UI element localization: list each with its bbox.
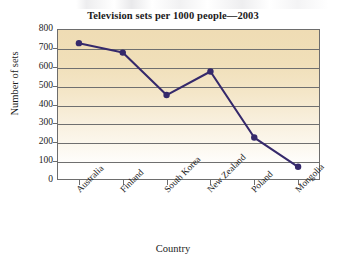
- data-point-new-zealand: New Zealand: 575: [207, 68, 213, 74]
- data-point-south-korea: South Korea: 450: [163, 92, 169, 98]
- series-markers: Australia: 725Finland: 675South Korea: 4…: [76, 40, 302, 170]
- data-point-finland: Finland: 675: [120, 49, 126, 55]
- data-series-layer: Australia: 725Finland: 675South Korea: 4…: [0, 0, 346, 269]
- data-point-poland: Poland: 225: [251, 134, 257, 140]
- data-point-mongolia: Mongolia: 70: [295, 164, 301, 170]
- series-line: [79, 43, 298, 167]
- x-axis-title: Country: [0, 243, 346, 254]
- data-point-australia: Australia: 725: [76, 40, 82, 46]
- chart-figure: Television sets per 1000 people—2003 Num…: [0, 0, 346, 269]
